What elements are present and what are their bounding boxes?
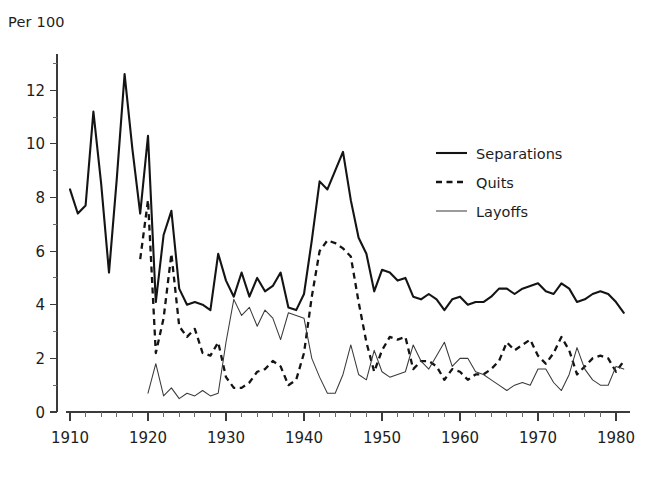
y-tick-label: 6 [35,243,45,261]
y-axis: 024681012 [26,54,57,422]
x-tick-label: 1980 [597,429,635,447]
chart-figure: Per 100 024681012 1910192019301940195019… [0,0,653,480]
x-axis: 19101920193019401950196019701980 [51,412,635,447]
x-tick-label: 1920 [129,429,167,447]
y-tick-label: 10 [26,135,45,153]
y-tick-label: 0 [35,404,45,422]
x-tick-label: 1960 [441,429,479,447]
y-tick-label: 2 [35,350,45,368]
x-tick-label: 1930 [207,429,245,447]
y-tick-label: 12 [26,82,45,100]
series-layer [70,74,624,399]
series-line-separations [70,74,624,313]
x-tick-label: 1950 [363,429,401,447]
line-chart-plot: 024681012 191019201930194019501960197019… [0,0,653,480]
x-tick-label: 1970 [519,429,557,447]
x-tick-label: 1940 [285,429,323,447]
y-tick-label: 4 [35,296,45,314]
legend-label-layoffs: Layoffs [476,204,528,220]
y-tick-label: 8 [35,189,45,207]
legend-label-quits: Quits [476,175,514,191]
x-tick-label: 1910 [51,429,89,447]
y-axis-unit-label: Per 100 [8,14,65,30]
chart-legend: SeparationsQuitsLayoffs [436,146,562,220]
legend-label-separations: Separations [476,146,562,162]
